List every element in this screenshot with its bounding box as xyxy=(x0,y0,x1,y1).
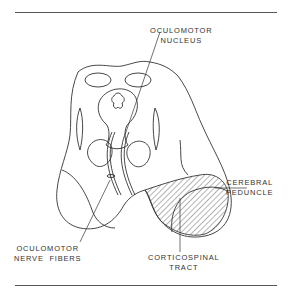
label-cerebral-peduncle: CEREBRAL PEDUNCLE xyxy=(226,178,273,198)
left-colliculus xyxy=(85,73,111,87)
leader-oculomotor-nucleus xyxy=(126,32,160,132)
cerebral-aqueduct xyxy=(112,93,125,108)
label-oculomotor-nerve-fibers: OCULOMOTOR NERVE FIBERS xyxy=(14,244,81,264)
right-red-nucleus xyxy=(127,141,150,167)
leader-oculomotor-fibers xyxy=(80,180,110,242)
label-corticospinal-tract: CORTICOSPINAL TRACT xyxy=(148,253,220,273)
right-colliculus xyxy=(125,73,151,87)
label-oculomotor-nucleus: OCULOMOTOR NUCLEUS xyxy=(150,26,212,46)
cerebral-peduncle-region xyxy=(145,174,228,235)
